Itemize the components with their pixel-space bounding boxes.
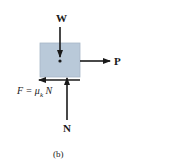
normal-force-label: N <box>63 122 71 134</box>
figure-caption: (b) <box>53 149 64 159</box>
applied-force-label: P <box>114 55 121 67</box>
free-body-diagram: W P F = μk N N (b) <box>0 0 170 163</box>
friction-label: F = μk N <box>16 85 54 99</box>
weight-label: W <box>56 12 67 24</box>
friction-label-main: F = μ <box>16 85 40 96</box>
center-of-mass-dot <box>58 59 61 62</box>
friction-label-suffix: N <box>43 85 54 96</box>
